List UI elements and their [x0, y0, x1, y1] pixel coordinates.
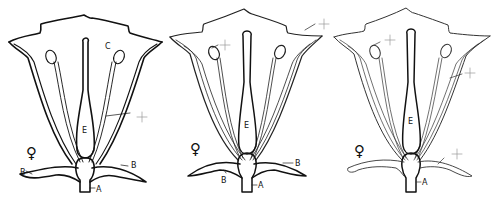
female-symbol-middle: ♀ — [190, 140, 201, 158]
label-sepal-right-left: B — [131, 161, 137, 170]
corolla-lobe-marker — [319, 19, 329, 29]
corolla-wall-left-inner — [14, 44, 76, 164]
stamen-filament-right — [254, 58, 276, 158]
female-symbol-left: ♀ — [26, 144, 37, 162]
stamen-filament-right — [418, 58, 442, 158]
stamen-filament-right — [92, 62, 116, 162]
corolla-wall-right-outer — [100, 42, 162, 164]
corolla-wall-right-inner — [96, 44, 157, 164]
flower-right — [334, 8, 490, 192]
sepal-right — [90, 167, 146, 182]
pistil — [403, 29, 421, 154]
anther-right — [273, 44, 288, 61]
corolla-wall-right-inner — [253, 40, 316, 160]
anther-marker — [385, 35, 395, 45]
corolla-wall-left-outer — [170, 37, 238, 160]
label-receptacle-left: A — [96, 185, 102, 194]
pistil — [77, 38, 95, 158]
female-symbol-right: ♀ — [354, 142, 365, 160]
label-pistil-middle: E — [244, 121, 249, 130]
corolla-rim — [170, 9, 322, 37]
anther-left — [44, 49, 58, 66]
corolla-tube-marker — [465, 68, 475, 78]
flower-diagram: C E B B A ♀ — [0, 0, 496, 200]
corolla-wall-right-outer — [420, 36, 490, 160]
sepal-left — [188, 163, 242, 179]
label-sepal-left-middle: B — [221, 176, 227, 185]
label-sepal-right-middle: B — [295, 159, 301, 168]
sepal-left — [20, 167, 80, 182]
anther-left — [368, 44, 382, 61]
anther-marker — [220, 40, 230, 50]
anther-right — [439, 43, 454, 60]
sepal-left — [348, 160, 404, 176]
label-sepal-left-left: B — [20, 168, 26, 177]
label-pistil-right: E — [408, 117, 413, 126]
label-receptacle-right: A — [422, 178, 428, 187]
corolla-wall-left-inner — [176, 40, 242, 160]
corolla-rim — [334, 8, 490, 37]
corolla-wall-left-outer — [9, 42, 72, 164]
ovary — [76, 158, 94, 192]
label-receptacle-middle: A — [258, 181, 264, 190]
label-pistil-left: E — [82, 126, 87, 135]
label-corolla-left: C — [105, 42, 111, 51]
stamen-filament-marker — [137, 112, 147, 122]
anther-right — [112, 49, 127, 66]
sepal-marker — [452, 149, 462, 159]
sepal-right — [418, 161, 472, 177]
pistil — [239, 31, 257, 154]
flower-middle — [170, 9, 329, 192]
flower-left — [9, 15, 162, 192]
